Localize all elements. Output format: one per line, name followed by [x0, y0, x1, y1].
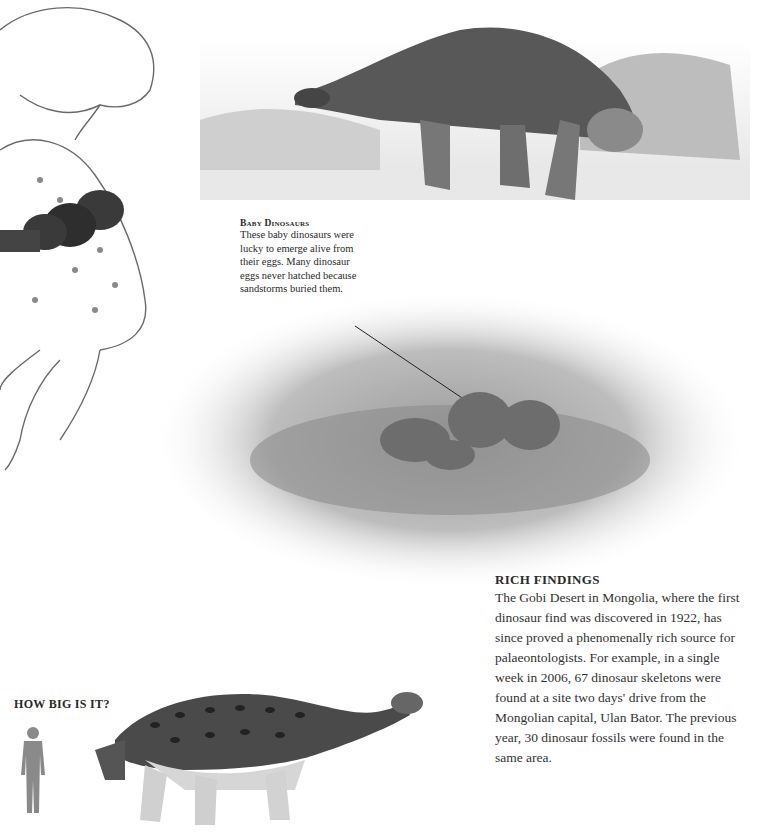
caption-baby-dinosaurs: Baby Dinosaurs These baby dinosaurs were…: [240, 218, 400, 296]
tyrannosaur-illustration: [0, 0, 170, 480]
caption-body: These baby dinosaurs were lucky to emerg…: [240, 228, 400, 296]
baby-dinosaurs-nest-illustration: [150, 290, 750, 590]
ankylosaur-scale-illustration: [85, 680, 425, 830]
human-silhouette: [15, 725, 51, 815]
rich-findings-title: RICH FINDINGS: [495, 572, 760, 588]
caption-title: Baby Dinosaurs: [240, 218, 400, 228]
rich-findings-section: RICH FINDINGS The Gobi Desert in Mongoli…: [495, 572, 760, 768]
rich-findings-body: The Gobi Desert in Mongolia, where the f…: [495, 588, 760, 768]
pinacosaurus-illustration: [200, 0, 750, 210]
